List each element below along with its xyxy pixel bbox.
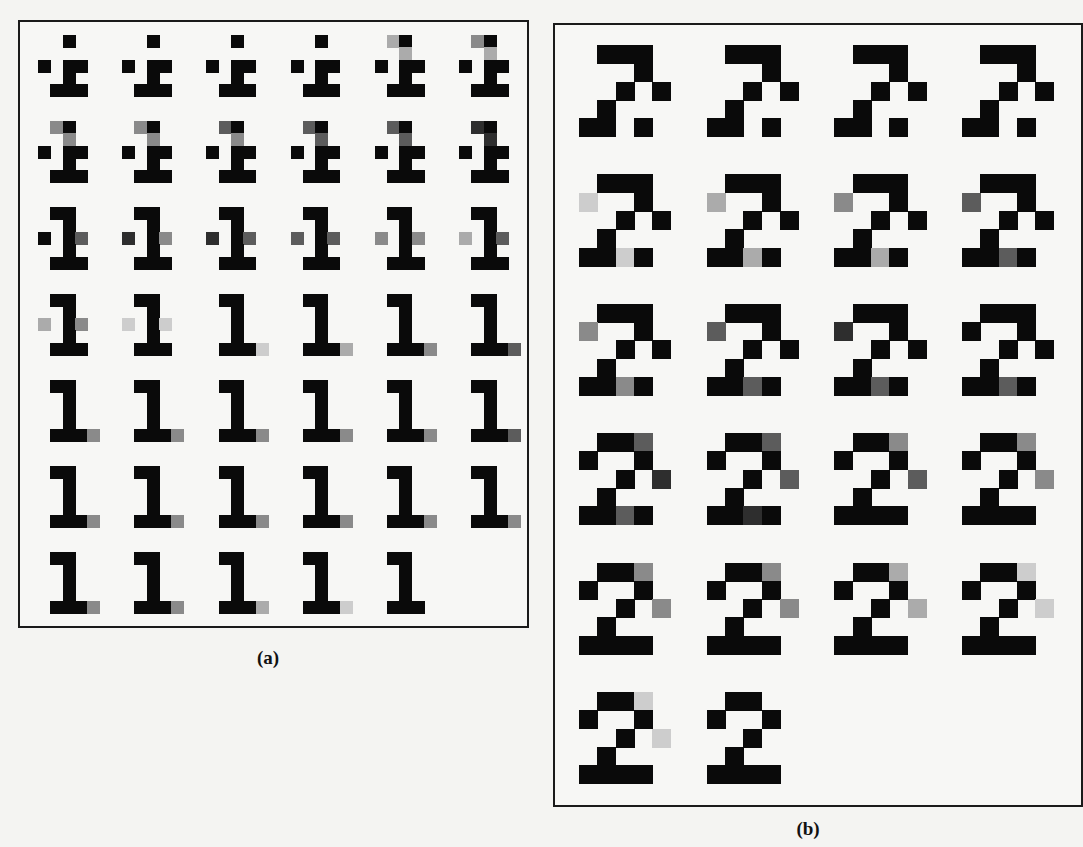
pixel-cell xyxy=(147,564,160,577)
pixel-cell xyxy=(871,636,890,655)
pixel-cell xyxy=(412,60,425,73)
pixel-cell xyxy=(50,294,63,307)
pixel-cell xyxy=(206,146,219,159)
pixel-cell xyxy=(412,343,425,356)
pixel-cell xyxy=(315,318,328,331)
pixel-cell xyxy=(999,174,1018,193)
pixel-cell xyxy=(75,515,88,528)
pixel-cell xyxy=(159,84,172,97)
pixel-cell xyxy=(206,232,219,245)
pixel-cell xyxy=(471,466,484,479)
pixel-cell xyxy=(980,100,999,119)
pixel-cell xyxy=(147,466,160,479)
pixel-cell xyxy=(231,318,244,331)
pixel-cell xyxy=(387,170,400,183)
pixel-cell xyxy=(291,146,304,159)
pixel-cell xyxy=(634,45,653,64)
pixel-cell xyxy=(303,343,316,356)
pixel-cell xyxy=(597,636,616,655)
pixel-cell xyxy=(147,60,160,73)
pixel-cell xyxy=(399,404,412,417)
pixel-cell xyxy=(315,515,328,528)
pixel-cell xyxy=(484,207,497,220)
pixel-cell xyxy=(1035,340,1054,359)
pixel-cell xyxy=(743,563,762,582)
pixel-cell xyxy=(399,60,412,73)
pixel-cell xyxy=(159,318,172,331)
pixel-cell xyxy=(484,318,497,331)
pixel-cell xyxy=(889,322,908,341)
pixel-cell xyxy=(616,248,635,267)
pixel-cell xyxy=(134,121,147,134)
panel-b-digit-2-grid xyxy=(553,23,1083,807)
pixel-cell xyxy=(908,470,927,489)
pixel-cell xyxy=(315,577,328,590)
pixel-cell xyxy=(459,60,472,73)
pixel-cell xyxy=(147,478,160,491)
pixel-cell xyxy=(484,429,497,442)
pixel-cell xyxy=(231,244,244,257)
pixel-cell xyxy=(853,636,872,655)
pixel-cell xyxy=(853,506,872,525)
pixel-cell xyxy=(634,193,653,212)
pixel-cell xyxy=(38,146,51,159)
pixel-cell xyxy=(399,478,412,491)
pixel-cell xyxy=(871,248,890,267)
pixel-cell xyxy=(579,118,598,137)
pixel-cell xyxy=(471,35,484,48)
pixel-cell xyxy=(315,232,328,245)
pixel-cell xyxy=(63,121,76,134)
pixel-cell xyxy=(1017,581,1036,600)
pixel-cell xyxy=(63,380,76,393)
pixel-cell xyxy=(63,207,76,220)
pixel-cell xyxy=(315,343,328,356)
pixel-cell xyxy=(63,429,76,442)
pixel-cell xyxy=(231,552,244,565)
pixel-cell xyxy=(871,211,890,230)
pixel-cell xyxy=(63,343,76,356)
pixel-cell xyxy=(634,636,653,655)
pixel-cell xyxy=(780,599,799,618)
pixel-cell xyxy=(616,174,635,193)
pixel-cell xyxy=(634,692,653,711)
pixel-cell xyxy=(315,380,328,393)
pixel-cell xyxy=(50,515,63,528)
pixel-cell xyxy=(327,170,340,183)
pixel-cell xyxy=(256,601,269,614)
pixel-cell xyxy=(159,515,172,528)
pixel-cell xyxy=(889,581,908,600)
pixel-cell xyxy=(1035,211,1054,230)
pixel-cell xyxy=(616,211,635,230)
pixel-cell xyxy=(340,343,353,356)
pixel-cell xyxy=(834,377,853,396)
pixel-cell xyxy=(471,380,484,393)
pixel-cell xyxy=(484,133,497,146)
pixel-cell xyxy=(303,552,316,565)
pixel-cell xyxy=(315,294,328,307)
pixel-cell xyxy=(508,343,521,356)
pixel-cell xyxy=(387,515,400,528)
pixel-cell xyxy=(424,343,437,356)
pixel-cell xyxy=(387,601,400,614)
pixel-cell xyxy=(1017,377,1036,396)
pixel-cell xyxy=(634,63,653,82)
pixel-cell xyxy=(471,84,484,97)
pixel-cell xyxy=(147,515,160,528)
pixel-cell xyxy=(1017,451,1036,470)
pixel-cell xyxy=(231,503,244,516)
pixel-cell xyxy=(484,392,497,405)
pixel-cell xyxy=(471,207,484,220)
pixel-cell xyxy=(743,45,762,64)
pixel-cell xyxy=(908,82,927,101)
pixel-cell xyxy=(63,601,76,614)
pixel-cell xyxy=(962,451,981,470)
pixel-cell xyxy=(291,232,304,245)
pixel-cell xyxy=(1035,599,1054,618)
pixel-cell xyxy=(63,257,76,270)
pixel-cell xyxy=(134,294,147,307)
pixel-cell xyxy=(315,417,328,430)
pixel-cell xyxy=(315,601,328,614)
pixel-cell xyxy=(315,244,328,257)
pixel-cell xyxy=(399,121,412,134)
pixel-cell xyxy=(231,330,244,343)
